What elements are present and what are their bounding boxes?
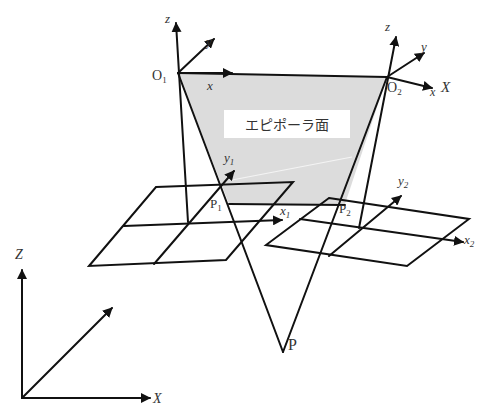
camera1-z-label: z [164,11,170,26]
epipolar-geometry-diagram: エピポーラ面 z y x O1 z y x X O2 y1 P1 x1 y2 P… [0,0,488,417]
camera2-origin-label: O2 [387,80,402,97]
camera2-y-label: y [419,39,427,54]
camera1-origin-label: O1 [152,68,167,85]
epipolar-line-bottom [229,204,345,205]
camera2-x-label: x [429,85,436,99]
image1-x-label: x1 [279,203,290,220]
camera1-x-label: x [206,78,213,93]
world-depth-axis [22,308,112,398]
scene-point-label: P [288,336,297,353]
image1-point-label: P1 [210,196,222,213]
camera1-y-label: y [204,34,212,49]
world-Z-label: Z [15,247,23,262]
baseline-X-label: X [440,79,451,95]
plane-label: エピポーラ面 [245,117,329,133]
world-X-label: X [152,391,162,406]
image2-point-label: P2 [339,201,351,218]
image2-y-label: y2 [396,173,409,190]
camera1-z-axis [176,23,188,222]
camera2-z-label: z [384,19,390,34]
image2-x-label: x2 [463,232,475,249]
image-plane-2-x-axis [300,219,463,242]
image-plane-2 [266,198,469,266]
